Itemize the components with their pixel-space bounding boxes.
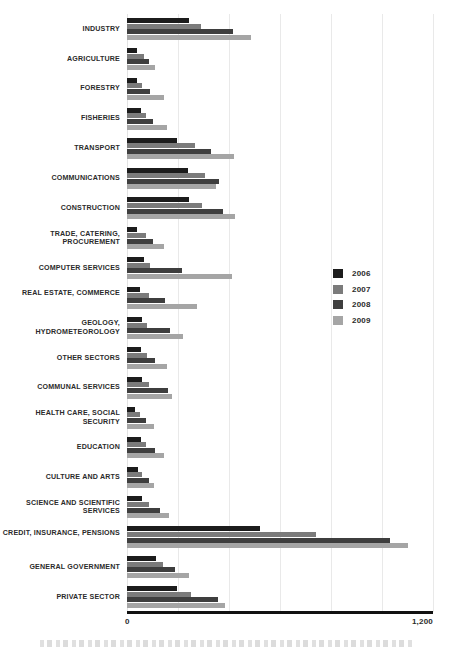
bar-2009 bbox=[127, 35, 251, 40]
bar-2006 bbox=[127, 407, 135, 412]
bar-2007 bbox=[127, 113, 146, 118]
bar-2008 bbox=[127, 209, 223, 214]
category-label: PRIVATE SECTOR bbox=[2, 593, 120, 602]
bar-2008 bbox=[127, 358, 155, 363]
bar-2006 bbox=[127, 48, 137, 53]
bar-2008 bbox=[127, 597, 218, 602]
bar-2006 bbox=[127, 78, 137, 83]
bar-2008 bbox=[127, 508, 160, 513]
bar-2006 bbox=[127, 347, 141, 352]
bar-group bbox=[127, 108, 433, 130]
bar-2008 bbox=[127, 567, 175, 572]
bar-2009 bbox=[127, 65, 155, 70]
bar-2007 bbox=[127, 24, 201, 29]
bar-2009 bbox=[127, 424, 154, 429]
bar-group bbox=[127, 467, 433, 489]
bar-2007 bbox=[127, 562, 163, 567]
bar-2006 bbox=[127, 467, 138, 472]
bar-2007 bbox=[127, 263, 150, 268]
bar-2008 bbox=[127, 239, 153, 244]
bar-2007 bbox=[127, 233, 146, 238]
bar-group bbox=[127, 586, 433, 608]
bar-2006 bbox=[127, 317, 142, 322]
category-label: EDUCATION bbox=[2, 443, 120, 452]
bar-2006 bbox=[127, 108, 141, 113]
x-tick-label-min: 0 bbox=[125, 617, 130, 626]
footer-caption-cropped bbox=[40, 640, 414, 647]
bar-2007 bbox=[127, 203, 202, 208]
x-axis-line bbox=[127, 611, 433, 614]
bar-2008 bbox=[127, 388, 168, 393]
bar-2007 bbox=[127, 412, 140, 417]
bar-2006 bbox=[127, 586, 177, 591]
bar-2006 bbox=[127, 138, 177, 143]
bar-2007 bbox=[127, 54, 144, 59]
bar-group bbox=[127, 48, 433, 70]
category-label: TRANSPORT bbox=[2, 144, 120, 153]
bar-2009 bbox=[127, 154, 234, 159]
bar-group bbox=[127, 168, 433, 190]
legend-label: 2009 bbox=[352, 316, 371, 325]
bar-2006 bbox=[127, 526, 260, 531]
legend-item[interactable]: 2008 bbox=[333, 297, 428, 313]
category-axis-labels: INDUSTRYAGRICULTUREFORESTRYFISHERIESTRAN… bbox=[0, 14, 120, 612]
bar-2007 bbox=[127, 442, 146, 447]
bar-2009 bbox=[127, 453, 164, 458]
bar-2007 bbox=[127, 143, 195, 148]
bar-2008 bbox=[127, 538, 390, 543]
bar-2009 bbox=[127, 364, 167, 369]
x-tick-label-max: 1,200 bbox=[412, 617, 433, 626]
bar-2008 bbox=[127, 328, 170, 333]
bar-2006 bbox=[127, 257, 144, 262]
bar-2006 bbox=[127, 227, 137, 232]
category-label: GENERAL GOVERNMENT bbox=[2, 563, 120, 572]
legend-item[interactable]: 2009 bbox=[333, 313, 428, 329]
bar-2009 bbox=[127, 543, 408, 548]
bar-2008 bbox=[127, 448, 155, 453]
bar-group bbox=[127, 526, 433, 548]
bar-2008 bbox=[127, 59, 149, 64]
bar-2008 bbox=[127, 119, 153, 124]
bar-2009 bbox=[127, 125, 167, 130]
bar-chart: INDUSTRYAGRICULTUREFORESTRYFISHERIESTRAN… bbox=[0, 0, 454, 649]
category-label: FISHERIES bbox=[2, 114, 120, 123]
bar-2006 bbox=[127, 18, 189, 23]
bar-group bbox=[127, 78, 433, 100]
bar-group bbox=[127, 347, 433, 369]
bar-group bbox=[127, 496, 433, 518]
bar-2009 bbox=[127, 184, 216, 189]
category-label: COMMUNAL SERVICES bbox=[2, 383, 120, 392]
bar-2007 bbox=[127, 532, 316, 537]
bar-group bbox=[127, 407, 433, 429]
bar-2008 bbox=[127, 89, 150, 94]
bar-2009 bbox=[127, 304, 197, 309]
bar-2006 bbox=[127, 197, 189, 202]
bar-2009 bbox=[127, 95, 164, 100]
bar-2009 bbox=[127, 573, 189, 578]
bar-2009 bbox=[127, 513, 169, 518]
bar-2009 bbox=[127, 274, 232, 279]
legend-swatch-2009 bbox=[333, 316, 343, 325]
legend-item[interactable]: 2007 bbox=[333, 282, 428, 298]
bar-2007 bbox=[127, 353, 147, 358]
category-label: COMMUNICATIONS bbox=[2, 174, 120, 183]
category-label: CONSTRUCTION bbox=[2, 204, 120, 213]
bar-2009 bbox=[127, 603, 225, 608]
bar-group bbox=[127, 227, 433, 249]
legend-item[interactable]: 2006 bbox=[333, 266, 428, 282]
bar-2009 bbox=[127, 334, 183, 339]
bar-2006 bbox=[127, 168, 188, 173]
legend-swatch-2008 bbox=[333, 300, 343, 309]
category-label: HEALTH CARE, SOCIAL SECURITY bbox=[2, 409, 120, 426]
bar-2006 bbox=[127, 377, 142, 382]
bar-2007 bbox=[127, 502, 149, 507]
bar-group bbox=[127, 437, 433, 459]
bar-2008 bbox=[127, 418, 146, 423]
bar-group bbox=[127, 556, 433, 578]
legend-label: 2007 bbox=[352, 285, 371, 294]
bar-group bbox=[127, 18, 433, 40]
bar-2008 bbox=[127, 478, 149, 483]
legend-label: 2008 bbox=[352, 300, 371, 309]
bar-2008 bbox=[127, 29, 233, 34]
legend-swatch-2006 bbox=[333, 269, 343, 278]
